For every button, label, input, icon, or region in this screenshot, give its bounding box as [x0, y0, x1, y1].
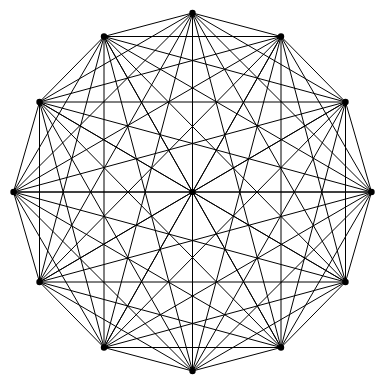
graph-vertex — [189, 368, 195, 374]
graph-vertex — [10, 189, 16, 195]
complete-graph-svg — [0, 0, 385, 385]
graph-vertex — [189, 10, 195, 16]
graph-vertex — [36, 279, 42, 285]
graph-vertex — [36, 99, 42, 105]
graph-figure — [0, 0, 385, 385]
graph-vertex — [189, 189, 195, 195]
graph-vertex — [278, 33, 284, 39]
graph-vertex — [278, 344, 284, 350]
graph-vertex — [101, 33, 107, 39]
graph-vertex — [368, 189, 374, 195]
graph-vertex — [342, 99, 348, 105]
graph-vertex — [342, 279, 348, 285]
graph-vertex — [101, 344, 107, 350]
